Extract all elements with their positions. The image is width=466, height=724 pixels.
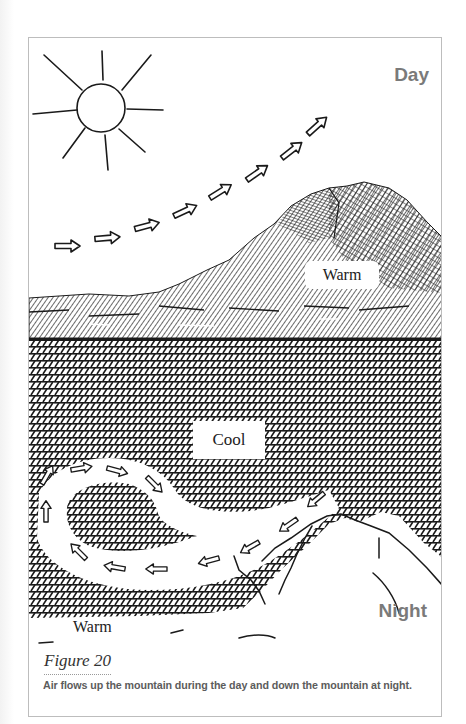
sun-icon [33,51,163,170]
figure-title: Figure 20 [44,651,111,675]
day-panel [29,51,442,338]
night-label: Night [378,600,427,622]
cool-air-label: Cool [193,421,265,459]
day-label: Day [394,64,429,86]
warm-ground-label-night: Warm [73,618,112,636]
figure-caption: Air flows up the mountain during the day… [43,679,412,691]
night-panel [29,338,442,643]
hatched-mountain [29,182,442,338]
warm-zone-label-day: Warm [305,261,379,289]
figure-frame: Day Warm Cool Night Warm Figure 20 Air f… [28,37,442,717]
page-edge-shadow [0,0,14,724]
